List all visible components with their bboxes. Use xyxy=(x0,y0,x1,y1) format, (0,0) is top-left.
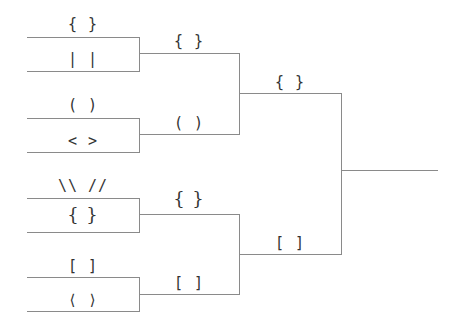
r2-join-1 xyxy=(239,53,240,135)
r1-line-2 xyxy=(27,71,139,72)
r1-line-7 xyxy=(27,277,139,278)
r3-label-1: { } xyxy=(239,74,341,90)
r1-label-7: [ ] xyxy=(27,258,139,274)
r1-line-3 xyxy=(27,118,139,119)
r2-label-2: ( ) xyxy=(139,115,239,131)
r1-label-6: { } xyxy=(27,207,139,223)
r1-label-3: ( ) xyxy=(27,97,139,113)
r2-line-2 xyxy=(139,134,239,135)
r3-line-1 xyxy=(239,93,341,94)
r1-label-4: < > xyxy=(27,133,139,149)
r2-label-3: { } xyxy=(139,191,239,207)
r2-line-3 xyxy=(139,214,239,215)
r1-label-1: { } xyxy=(27,16,139,32)
r2-label-1: { } xyxy=(139,33,239,49)
r1-label-2: | | xyxy=(27,51,139,67)
r2-label-4: [ ] xyxy=(139,275,239,291)
r1-label-8: ⟨ ⟩ xyxy=(27,292,139,308)
r2-line-4 xyxy=(139,294,239,295)
r1-line-6 xyxy=(27,232,139,233)
r1-line-1 xyxy=(27,37,139,38)
r2-line-1 xyxy=(139,53,239,54)
r3-label-2: [ ] xyxy=(239,235,341,251)
r3-line-2 xyxy=(239,254,341,255)
r1-line-8 xyxy=(27,311,139,312)
r1-line-5 xyxy=(27,198,139,199)
final-line xyxy=(341,170,438,171)
r1-line-4 xyxy=(27,152,139,153)
r3-join xyxy=(341,93,342,255)
r1-label-5: \\ // xyxy=(27,178,139,194)
